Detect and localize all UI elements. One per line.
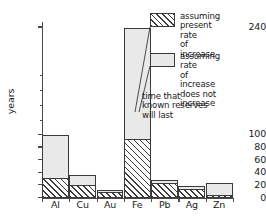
annotation-reserves: time that known reserves will last bbox=[142, 92, 208, 120]
y-tick-label: 60 bbox=[232, 155, 266, 165]
bar-segment-present-rate bbox=[206, 195, 233, 198]
bar-segment-present-rate bbox=[151, 183, 178, 198]
y-tick-label: 20 bbox=[232, 180, 266, 190]
x-tick-label-pb: Pb bbox=[151, 199, 178, 210]
x-tick-label-ag: Ag bbox=[178, 199, 205, 210]
bar-segment-present-rate bbox=[124, 139, 151, 198]
bar-segment-present-rate bbox=[97, 192, 124, 198]
x-tick-label-cu: Cu bbox=[69, 199, 96, 210]
y-tick-label: 80 bbox=[232, 142, 266, 152]
bar-chart: years 240100806040200 AlCuAuFePbAgZn ass… bbox=[0, 0, 266, 219]
x-tick-label-zn: Zn bbox=[206, 199, 233, 210]
y-tick-label: 40 bbox=[232, 167, 266, 177]
bar-segment-present-rate bbox=[178, 189, 205, 198]
legend-swatch-hatched-icon bbox=[150, 13, 175, 27]
x-tick bbox=[233, 198, 234, 202]
bar-group-au bbox=[97, 23, 124, 199]
x-tick-label-fe: Fe bbox=[124, 199, 151, 210]
y-tick-label: 0 bbox=[232, 193, 266, 203]
y-tick-label: 240 bbox=[232, 22, 266, 32]
bar-segment-present-rate bbox=[69, 185, 96, 198]
bar-group-cu bbox=[69, 23, 96, 199]
legend-swatch-gray-icon bbox=[150, 53, 175, 67]
bar-segment-present-rate bbox=[42, 178, 69, 198]
y-tick-label: 100 bbox=[232, 129, 266, 139]
y-axis-title: years bbox=[5, 80, 16, 124]
x-tick-label-al: Al bbox=[42, 199, 69, 210]
bar-group-al bbox=[42, 23, 69, 199]
x-tick-label-au: Au bbox=[97, 199, 124, 210]
